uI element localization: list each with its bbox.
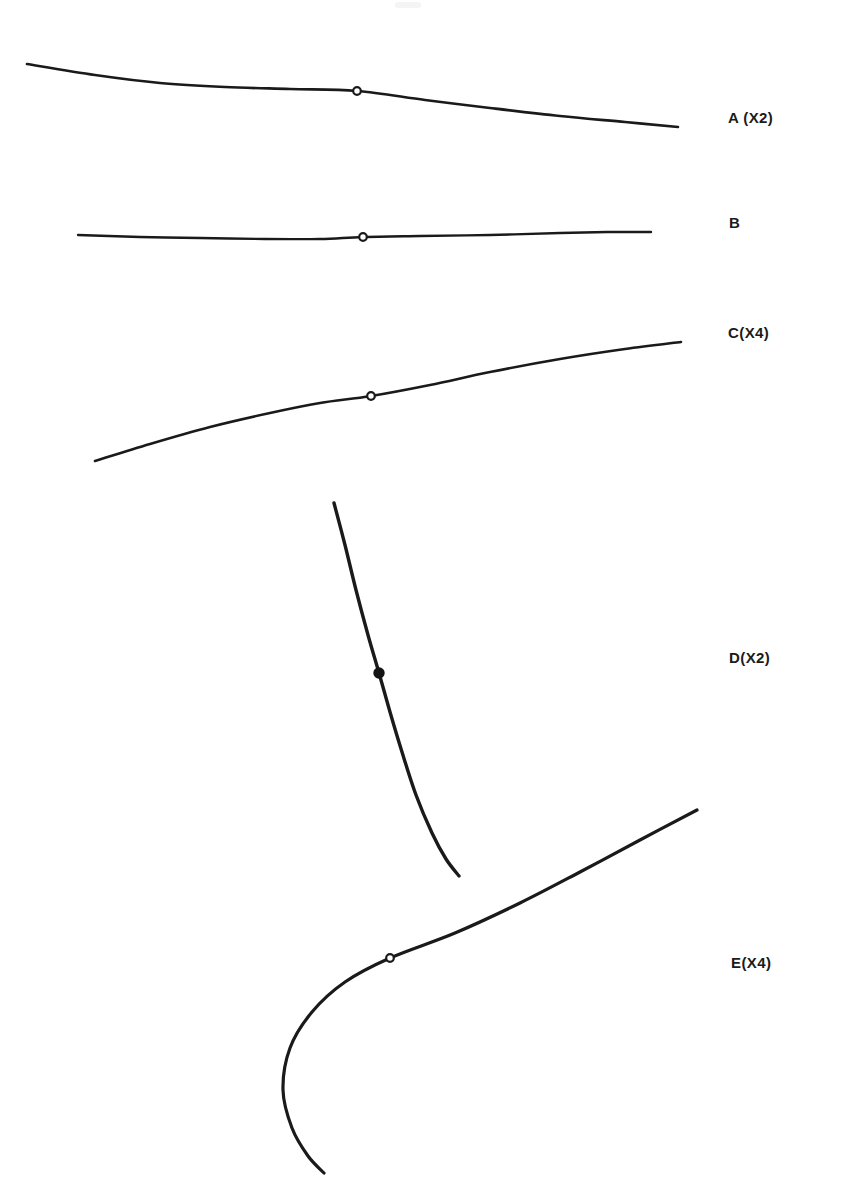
curve-label-e: E(X4) [731,955,771,970]
curves-svg [0,0,841,1204]
marker-point-ex4 [386,954,394,962]
curve-label-d: D(X2) [729,650,770,665]
curve-ax2 [27,64,678,127]
curve-label-c: C(X4) [728,325,769,340]
curve-label-a: A (X2) [728,110,773,125]
marker-point-b [359,233,367,241]
marker-point-cx4 [367,392,375,400]
curve-dx2 [334,503,459,876]
marker-point-dx2 [374,668,383,677]
curve-cx4 [95,342,681,461]
figure-canvas: A (X2)BC(X4)D(X2)E(X4) [0,0,841,1204]
marker-point-ax2 [353,87,361,95]
curves-group [27,64,697,1173]
markers-group [353,87,394,962]
curve-ex4 [283,810,697,1173]
curve-label-b: B [729,215,740,230]
